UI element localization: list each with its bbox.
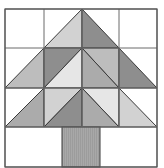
tree-quilt-diagram: [0, 0, 164, 168]
tree-trunk: [62, 127, 100, 167]
